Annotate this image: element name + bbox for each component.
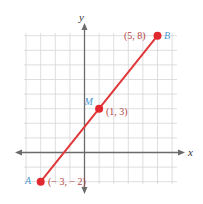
- coordinate-plane: x y A (− 3, − 2) M (1, 3) B (5, 8): [0, 0, 203, 204]
- point-m-coords: (1, 3): [106, 106, 128, 118]
- x-axis-left-arrow-icon: [15, 150, 22, 156]
- point-b-marker: [154, 32, 162, 40]
- x-axis-right-arrow-icon: [178, 150, 185, 156]
- point-a-name: A: [24, 175, 32, 186]
- x-axis: x: [15, 146, 193, 158]
- y-axis-up-arrow-icon: [82, 23, 88, 30]
- x-axis-label: x: [187, 146, 193, 158]
- point-b-name: B: [164, 30, 170, 41]
- point-b-coords: (5, 8): [124, 30, 146, 42]
- y-axis-down-arrow-icon: [82, 187, 88, 194]
- point-m-name: M: [84, 96, 94, 107]
- point-m-marker: [95, 105, 103, 113]
- y-axis-label: y: [78, 11, 84, 23]
- point-a-coords: (− 3, − 2): [48, 176, 86, 188]
- point-a-marker: [37, 178, 45, 186]
